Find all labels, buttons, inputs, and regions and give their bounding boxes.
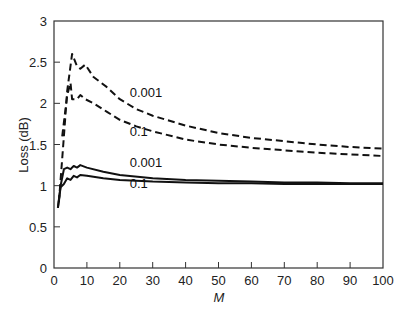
x-tick-label: 0	[50, 273, 57, 288]
y-tick-label: 1	[40, 179, 47, 194]
y-axis-title: Loss (dB)	[16, 117, 31, 173]
y-tick-label: 1.5	[29, 138, 47, 153]
curve-label: 0.001	[130, 85, 163, 100]
plot-border	[54, 21, 383, 268]
curve-label: 0.1	[130, 176, 148, 191]
plot-frame	[54, 21, 383, 268]
x-tick-label: 30	[145, 273, 159, 288]
x-tick-label: 20	[113, 273, 127, 288]
curve-label: 0.1	[130, 124, 148, 139]
y-axis-ticks: 00.511.522.53	[29, 14, 60, 276]
x-axis-ticks: 0102030405060708090100	[50, 262, 393, 288]
y-tick-label: 0.5	[29, 220, 47, 235]
x-tick-label: 40	[178, 273, 192, 288]
curve-solid-2	[58, 165, 383, 208]
x-tick-label: 60	[244, 273, 258, 288]
x-tick-label: 10	[80, 273, 94, 288]
y-tick-label: 2.5	[29, 55, 47, 70]
y-tick-label: 2	[40, 96, 47, 111]
loss-vs-m-chart: 0102030405060708090100 00.511.522.53 0.0…	[0, 0, 409, 315]
x-tick-label: 70	[277, 273, 291, 288]
y-tick-label: 0	[40, 261, 47, 276]
x-axis-title: M	[214, 290, 225, 305]
x-tick-label: 50	[211, 273, 225, 288]
data-curves	[58, 54, 383, 208]
curve-labels: 0.0010.10.0010.1	[130, 85, 163, 191]
curve-label: 0.001	[130, 155, 163, 170]
x-tick-label: 80	[310, 273, 324, 288]
x-tick-label: 100	[372, 273, 394, 288]
x-tick-label: 90	[343, 273, 357, 288]
y-tick-label: 3	[40, 14, 47, 29]
